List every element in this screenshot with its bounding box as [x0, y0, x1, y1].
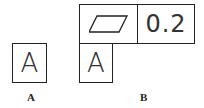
- datum-letter: A: [21, 48, 39, 78]
- tolerance-cell: 0.2: [137, 4, 195, 44]
- symbol-cell: [79, 4, 138, 44]
- datum-letter: A: [87, 48, 105, 78]
- caption-a: A: [27, 91, 35, 103]
- datum-feature-box-b: A: [79, 43, 113, 83]
- flatness-icon: [89, 14, 129, 34]
- datum-feature-box-a: A: [12, 43, 47, 83]
- tolerance-value: 0.2: [145, 10, 186, 38]
- caption-b: B: [140, 91, 147, 103]
